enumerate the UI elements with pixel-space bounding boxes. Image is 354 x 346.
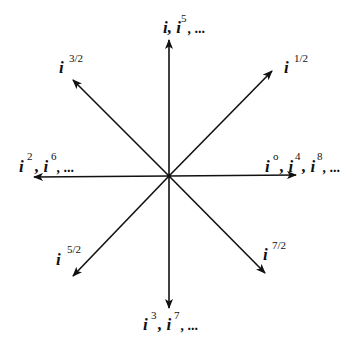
arrow-nw — [73, 80, 169, 176]
svg-text:3/2: 3/2 — [69, 52, 83, 64]
svg-text:7: 7 — [174, 309, 180, 321]
svg-text:, i: , i — [34, 157, 49, 176]
arrow-right — [169, 175, 296, 176]
svg-text:2: 2 — [27, 150, 33, 162]
svg-text:, i: , i — [157, 315, 172, 334]
svg-text:5/2: 5/2 — [67, 243, 81, 255]
origin-dot — [167, 174, 171, 178]
svg-text:, ...: , ... — [56, 160, 75, 175]
svg-text:, ...: , ... — [180, 318, 199, 333]
label-sw: i 5/2 — [56, 243, 81, 269]
svg-text:i: i — [143, 315, 148, 334]
svg-text:i: i — [19, 157, 24, 176]
svg-text:o: o — [273, 150, 279, 162]
svg-text:i: i — [59, 58, 64, 77]
svg-text:4: 4 — [295, 150, 301, 162]
arrow-sw — [73, 176, 169, 276]
svg-text:, ...: , ... — [187, 21, 206, 36]
label-ne: i 1/2 — [284, 52, 308, 77]
label-up: i, i 5 , ... — [163, 12, 206, 37]
svg-text:i: i — [263, 245, 268, 264]
arrow-ne — [169, 71, 272, 176]
label-right: i o , i 4 , i 8 , ... — [265, 150, 341, 176]
svg-text:7/2: 7/2 — [272, 239, 286, 251]
svg-text:i: i — [265, 157, 270, 176]
arrow-left — [34, 176, 169, 177]
svg-text:5: 5 — [181, 12, 187, 24]
svg-text:i: i — [56, 250, 61, 269]
arrow-se — [169, 176, 265, 273]
svg-text:, i: , i — [301, 157, 316, 176]
label-se: i 7/2 — [263, 239, 286, 264]
svg-text:3: 3 — [151, 309, 157, 321]
svg-text:, ...: , ... — [322, 160, 341, 175]
svg-text:i: i — [284, 58, 289, 77]
svg-text:1/2: 1/2 — [294, 52, 308, 64]
label-nw: i 3/2 — [59, 52, 83, 77]
label-left: i 2 , i 6 , ... — [19, 150, 75, 176]
powers-of-i-diagram: i, i 5 , ... i 1/2 i 3/2 i 2 , i 6 , ...… — [0, 0, 354, 346]
label-down: i 3 , i 7 , ... — [143, 309, 199, 334]
svg-text:, i: , i — [279, 157, 294, 176]
svg-text:i, i: i, i — [163, 18, 181, 37]
